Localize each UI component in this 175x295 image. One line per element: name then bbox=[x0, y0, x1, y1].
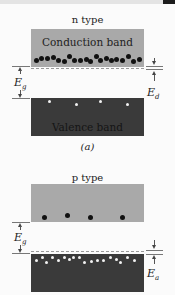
ed-top-tick bbox=[146, 66, 163, 67]
electron bbox=[88, 215, 93, 220]
panel-a-caption: (a) bbox=[0, 141, 175, 152]
electron bbox=[78, 58, 83, 63]
hole bbox=[83, 261, 86, 264]
electron bbox=[88, 59, 93, 64]
hole bbox=[48, 100, 51, 103]
electron bbox=[120, 215, 125, 220]
hole bbox=[41, 256, 44, 259]
eg-arrow-stem bbox=[20, 226, 21, 230]
electron bbox=[67, 54, 72, 59]
eg-arrow-stem bbox=[20, 70, 21, 74]
hole bbox=[63, 256, 66, 259]
electron bbox=[72, 58, 77, 63]
arrow-down-icon bbox=[152, 245, 156, 249]
hole bbox=[57, 259, 60, 262]
hole bbox=[78, 256, 81, 259]
hole bbox=[96, 259, 99, 262]
valence-band-b bbox=[31, 254, 144, 292]
electron bbox=[114, 57, 119, 62]
ea-arrow-stem bbox=[154, 259, 155, 264]
eg-bottom-tick bbox=[12, 98, 30, 99]
hole bbox=[102, 259, 105, 262]
conduction-band-b bbox=[31, 184, 144, 222]
valence-band-label: Valence band bbox=[31, 121, 144, 133]
electron bbox=[131, 59, 136, 64]
conduction-band-a: Conduction band bbox=[31, 29, 144, 67]
electron bbox=[137, 57, 142, 62]
panel-b-title: p type bbox=[0, 172, 175, 183]
hole bbox=[126, 256, 129, 259]
top-corner-block bbox=[163, 0, 175, 4]
electron bbox=[56, 58, 61, 63]
hole bbox=[51, 256, 54, 259]
ea-label: Ea bbox=[147, 267, 159, 282]
eg-bottom-tick bbox=[12, 253, 30, 254]
electron bbox=[62, 59, 67, 64]
hole bbox=[68, 258, 71, 261]
hole bbox=[119, 261, 122, 264]
top-strip bbox=[0, 0, 175, 4]
electron bbox=[120, 58, 125, 63]
hole bbox=[75, 103, 78, 106]
hole bbox=[109, 256, 112, 259]
donor-level-line bbox=[31, 68, 144, 69]
arrow-down-icon bbox=[18, 249, 22, 253]
hole bbox=[126, 103, 129, 106]
electron bbox=[126, 54, 131, 59]
arrow-down-icon bbox=[18, 94, 22, 98]
ed-label: Ed bbox=[147, 86, 160, 101]
conduction-band-label: Conduction band bbox=[31, 36, 144, 48]
hole bbox=[35, 259, 38, 262]
acceptor-level-line bbox=[31, 251, 144, 252]
hole bbox=[90, 260, 93, 263]
panel-a-title: n type bbox=[0, 14, 175, 25]
eg-label-a: Eg bbox=[14, 76, 27, 91]
hole bbox=[45, 261, 48, 264]
valence-band-a: Valence band bbox=[31, 98, 144, 136]
electron bbox=[45, 56, 50, 61]
hole bbox=[99, 100, 102, 103]
electron bbox=[42, 215, 47, 220]
hole bbox=[133, 259, 136, 262]
eg-label-b: Eg bbox=[14, 231, 27, 246]
ed-arrow-stem bbox=[154, 75, 155, 81]
ea-top-tick bbox=[146, 250, 163, 251]
hole bbox=[72, 256, 75, 259]
ed-bottom-tick bbox=[146, 69, 163, 70]
electron bbox=[65, 213, 70, 218]
hole bbox=[115, 258, 118, 261]
electron bbox=[39, 56, 44, 61]
electron bbox=[98, 58, 103, 63]
arrow-down-icon bbox=[152, 61, 156, 65]
